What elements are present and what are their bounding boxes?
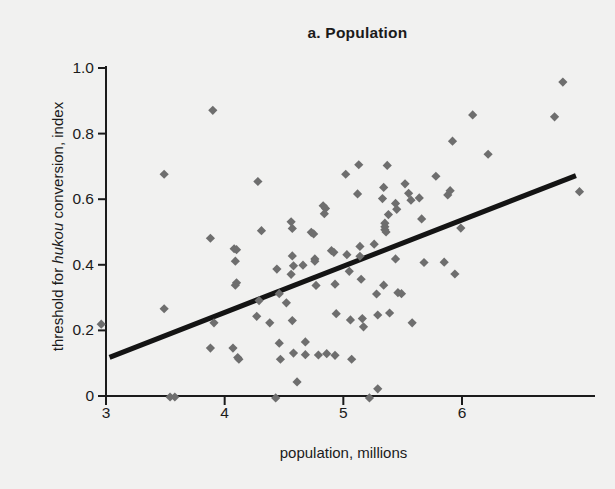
scatter-point (373, 310, 382, 319)
scatter-point (287, 270, 296, 279)
scatter-point (385, 308, 394, 317)
scatter-point (289, 261, 298, 270)
scatter-point (448, 137, 457, 146)
scatter-point (314, 350, 323, 359)
scatter-point (417, 214, 426, 223)
scatter-point (208, 106, 217, 115)
scatter-point (330, 280, 339, 289)
scatter-point (408, 318, 417, 327)
scatter-point (450, 269, 459, 278)
plot-area (0, 0, 615, 489)
scatter-point (353, 189, 362, 198)
scatter-point (272, 264, 281, 273)
scatter-point (372, 289, 381, 298)
scatter-point (370, 240, 379, 249)
scatter-point (346, 315, 355, 324)
scatter-point (252, 312, 261, 321)
scatter-point (440, 258, 449, 267)
scatter-point (271, 393, 280, 402)
scatter-point (301, 350, 310, 359)
scatter-points (97, 78, 584, 403)
scatter-point (359, 322, 368, 331)
scatter-point (288, 224, 297, 233)
scatter-point (311, 281, 320, 290)
scatter-point (419, 258, 428, 267)
scatter-point (558, 78, 567, 87)
scatter-point (354, 160, 363, 169)
scatter-point (160, 304, 169, 313)
scatter-point (415, 193, 424, 202)
scatter-point (400, 179, 409, 188)
scatter-point (330, 351, 339, 360)
scatter-point (550, 112, 559, 121)
scatter-point (347, 355, 356, 364)
chart-figure: a. Population threshold for hukou conver… (0, 0, 615, 489)
scatter-point (206, 234, 215, 243)
scatter-point (301, 337, 310, 346)
scatter-point (257, 226, 266, 235)
scatter-point (265, 318, 274, 327)
scatter-point (97, 320, 106, 329)
scatter-point (392, 205, 401, 214)
scatter-point (332, 309, 341, 318)
scatter-point (355, 242, 364, 251)
scatter-point (253, 177, 262, 186)
scatter-point (365, 393, 374, 402)
scatter-point (341, 170, 350, 179)
scatter-point (358, 314, 367, 323)
scatter-point (288, 251, 297, 260)
scatter-point (292, 377, 301, 386)
scatter-point (206, 344, 215, 353)
scatter-point (431, 172, 440, 181)
scatter-point (275, 339, 284, 348)
scatter-point (391, 254, 400, 263)
scatter-point (384, 210, 393, 219)
scatter-point (276, 355, 285, 364)
scatter-point (379, 183, 388, 192)
scatter-point (383, 161, 392, 170)
scatter-point (357, 275, 366, 284)
scatter-point (378, 194, 387, 203)
scatter-point (231, 257, 240, 266)
scatter-point (298, 261, 307, 270)
scatter-point (289, 348, 298, 357)
axes (98, 66, 595, 405)
scatter-point (160, 170, 169, 179)
scatter-point (456, 223, 465, 232)
scatter-point (575, 187, 584, 196)
trendline (110, 176, 576, 358)
scatter-point (170, 392, 179, 401)
scatter-point (322, 349, 331, 358)
scatter-point (468, 110, 477, 119)
scatter-point (373, 384, 382, 393)
scatter-point (484, 150, 493, 159)
scatter-point (228, 344, 237, 353)
scatter-point (379, 281, 388, 290)
scatter-point (342, 250, 351, 259)
scatter-point (288, 316, 297, 325)
scatter-point (345, 267, 354, 276)
scatter-point (282, 298, 291, 307)
trendline-path (110, 176, 576, 358)
